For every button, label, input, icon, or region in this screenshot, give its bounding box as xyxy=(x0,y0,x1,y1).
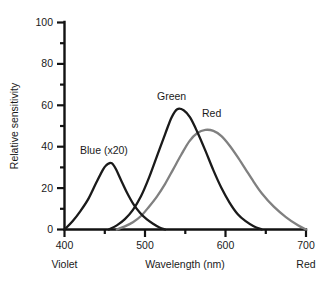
red-end-label: Red xyxy=(296,258,315,270)
y-tick-label-100: 100 xyxy=(35,16,53,28)
y-tick-label-60: 60 xyxy=(41,99,53,111)
x-tick-label-400: 400 xyxy=(56,239,74,251)
curve-green xyxy=(109,109,262,230)
axis-spines xyxy=(65,22,307,230)
y-axis-title: Relative sensitivity xyxy=(8,82,20,169)
spectral-sensitivity-chart: 100 80 60 40 20 0 400 500 600 700 Violet… xyxy=(0,0,326,281)
x-axis-title: Wavelength (nm) xyxy=(145,258,225,270)
y-tick-label-80: 80 xyxy=(41,57,53,69)
y-tick-label-40: 40 xyxy=(41,140,53,152)
x-tick-label-700: 700 xyxy=(297,239,315,251)
x-tick-label-600: 600 xyxy=(217,239,235,251)
series-label-green: Green xyxy=(157,90,186,102)
curve-red xyxy=(117,130,306,230)
x-tick-label-500: 500 xyxy=(136,239,154,251)
chart-figure: 100 80 60 40 20 0 400 500 600 700 Violet… xyxy=(0,0,326,281)
violet-end-label: Violet xyxy=(51,258,77,270)
series-label-blue: Blue (x20) xyxy=(80,144,128,156)
series-label-red: Red xyxy=(202,107,221,119)
y-tick-label-0: 0 xyxy=(47,223,53,235)
y-tick-label-20: 20 xyxy=(41,182,53,194)
